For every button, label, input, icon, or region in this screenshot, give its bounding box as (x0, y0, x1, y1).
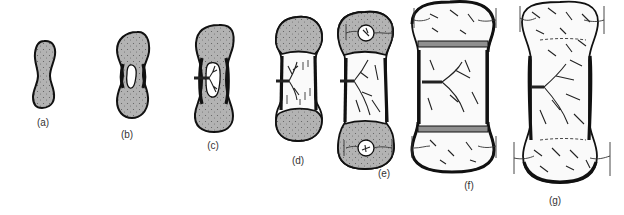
stage-d-primary-ossification-center (276, 17, 322, 141)
ossification-diagram (0, 0, 624, 215)
stage-b-bone-collar (117, 32, 149, 118)
stage-label-g: (g) (549, 195, 561, 206)
stage-label-d: (d) (292, 155, 304, 166)
stage-label-a: (a) (37, 117, 49, 128)
stage-c-periosteal-bud (194, 25, 234, 132)
stage-f-epiphyseal-plates (412, 2, 496, 172)
stage-label-b: (b) (121, 129, 133, 140)
stage-e-secondary-ossification-centers (338, 12, 394, 169)
stage-label-e: (e) (378, 168, 390, 179)
stage-label-c: (c) (207, 140, 219, 151)
stage-a-cartilage-model (33, 41, 55, 108)
stage-g-adult-bone (514, 2, 610, 183)
stage-label-f: (f) (464, 180, 473, 191)
